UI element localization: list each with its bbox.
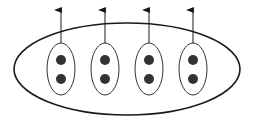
dot [188,55,198,65]
dot [188,74,198,84]
ellipse-grouping-diagram [0,0,253,123]
inner-ellipse [135,43,163,95]
inner-ellipse [179,43,207,95]
inner-ellipse [47,43,75,95]
dot [56,55,66,65]
inner-ellipse [91,43,119,95]
inner-group-1 [47,10,75,95]
dot [100,74,110,84]
dot [144,74,154,84]
dot [144,55,154,65]
dot [56,74,66,84]
dot [100,55,110,65]
inner-group-4 [179,10,207,95]
